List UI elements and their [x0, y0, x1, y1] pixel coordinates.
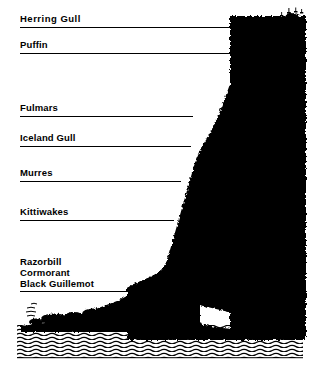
zone-label-cormorant: Cormorant — [20, 267, 94, 278]
zone-label-puffin: Puffin — [20, 40, 48, 51]
zone-label-razorbill: Razorbill — [20, 256, 94, 267]
zone-label-group-razorbill-cormorant-black-guillemot: Razorbill Cormorant Black Guillemot — [20, 256, 94, 289]
seabird-cliff-diagram: Herring Gull Puffin Fulmars Iceland Gull… — [0, 0, 320, 372]
cliff-illustration — [0, 0, 320, 372]
zone-label-fulmars: Fulmars — [20, 103, 58, 114]
zone-label-herring-gull: Herring Gull — [20, 14, 81, 25]
zone-label-iceland-gull: Iceland Gull — [20, 133, 76, 144]
zone-label-black-guillemot: Black Guillemot — [20, 278, 94, 289]
zone-label-kittiwakes: Kittiwakes — [20, 207, 69, 218]
zone-label-murres: Murres — [20, 168, 53, 179]
sea-water — [17, 325, 303, 358]
